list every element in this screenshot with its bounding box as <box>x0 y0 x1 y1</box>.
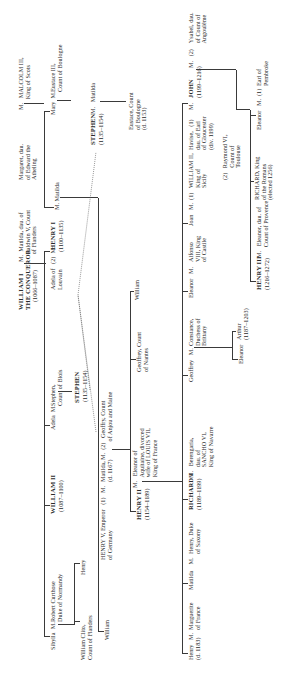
sibylla: Sibylla M. <box>50 622 57 650</box>
john-name: JOHN <box>188 79 195 98</box>
line <box>24 263 46 264</box>
robert-curthose: Robert Curthose Duke of Normandy <box>50 574 63 622</box>
genealogy-chart: WILLIAM I THE CONQUEROR (1066–1087) M. M… <box>0 0 288 682</box>
line <box>182 653 188 654</box>
malcolm-iii: M. MALCOLM III, King of Scots <box>18 57 31 110</box>
eustace-boulogne: Eustace, Count of Boulogne (d. 1153) <box>128 93 148 130</box>
richard-i-dates: (1189–1199) <box>196 478 203 510</box>
joan: Joan M. (1) <box>188 193 195 226</box>
henry-saxony: Henry, Duke of Saxony <box>188 522 201 554</box>
line <box>98 631 104 632</box>
line <box>250 281 256 282</box>
henry-v: HENRY V, Emperor (1) M. of Germany <box>100 486 113 560</box>
eleanor-provence: M. Eleanor, dau. of Count of Provence <box>256 201 269 258</box>
ysabel: M. (2) Ysabel, dau. of Count of Angoulêm… <box>188 12 208 68</box>
line <box>44 425 50 426</box>
line <box>58 624 74 625</box>
henry-iii-dates: (1216–1272) <box>264 258 271 290</box>
line <box>182 583 188 584</box>
line <box>130 359 136 360</box>
henry-i-dates: (1100–1135) <box>58 220 65 252</box>
children-bar-william-i <box>44 252 45 637</box>
line <box>112 449 130 450</box>
stephen-top-dates: (1135–1154) <box>98 113 105 145</box>
line <box>60 197 98 198</box>
john-prefix: M. <box>188 103 195 110</box>
stephen-blois: Stephen, Count of Blois <box>50 370 63 406</box>
line <box>130 511 136 512</box>
constance: Constance, Duchess of Brittany <box>188 318 208 346</box>
eleanor-john-daughter: Eleanor M. (1) <box>256 89 263 130</box>
line <box>250 115 256 116</box>
children-bar-malcolm <box>44 112 45 208</box>
line <box>98 198 99 468</box>
matilda-empress: Matilda, (d. 1167) <box>100 460 113 482</box>
line <box>196 69 236 70</box>
william-ii-name: WILLIAM II <box>50 475 57 514</box>
eleanor-aquitaine: M. Eleanor of Aquitaine, divorced wife o… <box>132 428 158 488</box>
william-ii-sicily: WILLIAM II, King of Sicily <box>188 153 208 188</box>
line <box>142 481 182 482</box>
marguerite: Marguerite of France <box>188 603 201 630</box>
adela: Adela M. <box>50 405 57 430</box>
margaret: Margaret, dau. of Edward the Atheling <box>18 144 38 180</box>
line <box>74 563 75 625</box>
line <box>182 375 188 376</box>
raymond-vi: (2) Raymond VI, Count of Toulouse <box>222 135 242 180</box>
line <box>182 499 188 500</box>
eleanor-castile: Eleanor M. <box>188 267 195 298</box>
adela-louvain: Adela of (2) M. Louvain <box>50 247 63 290</box>
william-i-spouse: M. Matilda, dau. of Baldwin V, Count of … <box>18 210 38 262</box>
matilda-saxony: Matilda M. <box>188 558 195 590</box>
arthur: Arthur (1187–1203) <box>236 308 249 340</box>
earl-pembroke: Earl of Pembroke <box>256 61 269 86</box>
children-bar-henry-ii <box>182 104 183 654</box>
line <box>44 636 50 637</box>
henry-ii-dates: (1154–1189) <box>144 488 151 520</box>
line <box>57 100 71 101</box>
line <box>58 391 72 392</box>
richard-king-romans: RICHARD, King of the Romans (elected 125… <box>254 157 274 200</box>
william-clito: William Clito, Count of Flanders <box>80 615 93 660</box>
henry-ii-name: HENRY II <box>136 489 143 520</box>
stephen-top-spouse: M. Matilda <box>90 83 97 114</box>
geoffrey-nantes: Geoffrey, Count of Nantes <box>136 332 149 372</box>
john-dates: (1199–1216) <box>196 66 203 98</box>
line <box>44 505 50 506</box>
william-son-geoffrey: William <box>134 280 141 300</box>
stephen-king-dates: (1135–1154) <box>82 370 89 402</box>
line <box>74 563 80 564</box>
line <box>24 103 44 104</box>
children-bar-john <box>250 110 251 282</box>
berengaria: M. Berengaria, dau. of SANCHO VI, King o… <box>188 427 214 478</box>
line <box>130 291 134 292</box>
line <box>182 223 188 224</box>
line <box>232 359 238 360</box>
henry-i-spouse: M. Matilda <box>54 182 61 210</box>
children-bar-matilda <box>130 292 131 512</box>
mary: Mary M. <box>50 91 57 115</box>
stephen-king-name: STEPHEN <box>74 372 81 403</box>
william-ii-dates: (1087–1100) <box>58 480 65 512</box>
line <box>44 251 50 252</box>
line <box>236 70 237 110</box>
line <box>232 332 233 360</box>
william-son-henry-v: William <box>104 620 111 640</box>
eleanor-brittany: Eleanor <box>238 345 245 364</box>
line <box>44 111 50 112</box>
line <box>236 109 250 110</box>
havise: Havise, (1) dau. of Earl of Gloucester (… <box>188 116 214 150</box>
henry-clito-brother: Henry <box>80 560 87 575</box>
henry-iii-name: HENRY III <box>256 256 263 290</box>
line <box>232 331 236 332</box>
line <box>182 291 188 292</box>
henry-i-name: HENRY I <box>50 222 57 250</box>
stephen-top-name: STEPHEN <box>90 114 97 145</box>
line <box>182 103 188 104</box>
alfonso-viii: Alfonso VIII, King of Castile <box>188 236 208 262</box>
line <box>194 347 232 348</box>
line <box>100 101 126 102</box>
william-i-dates: (1066–1087) <box>32 270 39 302</box>
line <box>44 207 54 208</box>
henry-young-king: Henry M. (d. 1183) <box>188 633 201 660</box>
